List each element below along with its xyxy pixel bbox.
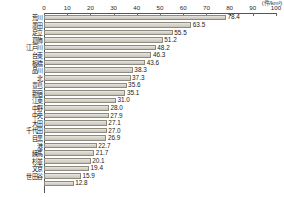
bar[interactable] xyxy=(44,173,81,179)
category-label: 文京 xyxy=(32,165,43,172)
category-label: 新宿 xyxy=(32,90,43,97)
category-label-row[interactable]: 港 xyxy=(0,142,44,150)
bar-row[interactable]: 37.3 xyxy=(44,74,276,82)
bar-row[interactable]: 43.6 xyxy=(44,59,276,67)
bar[interactable] xyxy=(44,181,74,187)
category-label-row[interactable]: 文京 xyxy=(0,165,44,173)
bar-row[interactable]: 26.9 xyxy=(44,135,276,143)
bar-value-label: 55.5 xyxy=(173,29,187,37)
bar-value-label: 51.2 xyxy=(163,36,177,44)
bar[interactable] xyxy=(44,128,107,134)
bar-value-label: 20.1 xyxy=(91,157,105,165)
x-tick-label: 40 xyxy=(133,4,140,11)
category-label: 江戸川 xyxy=(26,44,43,51)
bar-chart: (件/km²) 荒川墨田足立葛飾江戸川台東板橋品川北豊島新宿江東中野中央大田千代… xyxy=(0,0,284,197)
bar[interactable] xyxy=(44,120,107,126)
plot-area: 0102030405060708090100 78.463.555.551.24… xyxy=(44,13,276,193)
bar[interactable] xyxy=(44,15,226,21)
x-tick-label: 60 xyxy=(180,4,187,11)
bar[interactable] xyxy=(44,22,191,28)
bar[interactable] xyxy=(44,75,131,81)
bar-value-label: 12.8 xyxy=(74,179,88,187)
bar[interactable] xyxy=(44,90,125,96)
category-label-row[interactable]: 世田谷 xyxy=(0,172,44,180)
bar[interactable] xyxy=(44,105,109,111)
bar-value-label: 43.6 xyxy=(145,59,159,67)
bar-value-label: 78.4 xyxy=(226,13,240,21)
category-label-row[interactable]: 中央 xyxy=(0,112,44,120)
x-tick-label: 10 xyxy=(64,4,71,11)
category-label-row[interactable]: 杉並 xyxy=(0,157,44,165)
bar-row[interactable]: 63.5 xyxy=(44,22,276,30)
category-label: 品川 xyxy=(32,67,43,74)
bar-row[interactable]: 27.9 xyxy=(44,112,276,120)
bar-value-label: 27.1 xyxy=(107,119,121,127)
bar[interactable] xyxy=(44,30,173,36)
bar[interactable] xyxy=(44,158,91,164)
x-tick-mark xyxy=(276,13,277,16)
category-label: 板橋 xyxy=(32,59,43,66)
bar-value-label: 35.1 xyxy=(125,89,139,97)
bar-row[interactable]: 22.7 xyxy=(44,142,276,150)
bar-row[interactable]: 20.1 xyxy=(44,157,276,165)
bar[interactable] xyxy=(44,37,163,43)
category-label-row[interactable]: 豊島 xyxy=(0,82,44,90)
bar[interactable] xyxy=(44,113,109,119)
bar-value-label: 46.3 xyxy=(151,51,165,59)
bar-value-label: 31.0 xyxy=(116,96,130,104)
bar[interactable] xyxy=(44,45,156,51)
bar-value-label: 35.6 xyxy=(127,81,141,89)
category-label: 中央 xyxy=(32,112,43,119)
category-label: 練馬 xyxy=(32,150,43,157)
bar-row[interactable]: 35.1 xyxy=(44,89,276,97)
x-tick-label: 0 xyxy=(42,4,45,11)
category-label-row[interactable] xyxy=(0,180,44,188)
bar[interactable] xyxy=(44,83,127,89)
bar-row[interactable]: 31.0 xyxy=(44,97,276,105)
bar-value-label: 19.4 xyxy=(89,164,103,172)
bar[interactable] xyxy=(44,166,89,172)
category-label-row[interactable]: 品川 xyxy=(0,67,44,75)
bar-row[interactable]: 21.7 xyxy=(44,150,276,158)
bar-value-label: 63.5 xyxy=(191,21,205,29)
bar-row[interactable]: 28.0 xyxy=(44,105,276,113)
bar[interactable] xyxy=(44,60,145,66)
bar[interactable] xyxy=(44,135,106,141)
bar-value-label: 27.9 xyxy=(109,112,123,120)
category-label: 豊島 xyxy=(32,82,43,89)
bar-row[interactable]: 38.3 xyxy=(44,67,276,75)
bar-row[interactable]: 27.1 xyxy=(44,120,276,128)
x-tick-label: 30 xyxy=(110,4,117,11)
category-label-row[interactable]: 千代田 xyxy=(0,127,44,135)
category-label-row[interactable]: 足立 xyxy=(0,29,44,37)
category-label-row[interactable]: 荒川 xyxy=(0,14,44,22)
bar[interactable] xyxy=(44,143,97,149)
category-label-row[interactable]: 板橋 xyxy=(0,59,44,67)
bar-row[interactable]: 19.4 xyxy=(44,165,276,173)
category-label: 目黒 xyxy=(32,135,43,142)
bar-row[interactable]: 12.8 xyxy=(44,180,276,188)
bar[interactable] xyxy=(44,98,116,104)
category-axis-labels: 荒川墨田足立葛飾江戸川台東板橋品川北豊島新宿江東中野中央大田千代田目黒港練馬杉並… xyxy=(0,14,44,188)
bar-value-label: 48.2 xyxy=(156,44,170,52)
bar-row[interactable]: 55.5 xyxy=(44,29,276,37)
x-tick-label: 90 xyxy=(249,4,256,11)
bar-row[interactable]: 27.0 xyxy=(44,127,276,135)
bar[interactable] xyxy=(44,52,151,58)
category-label-row[interactable]: 練馬 xyxy=(0,150,44,158)
category-label-row[interactable]: 目黒 xyxy=(0,135,44,143)
category-label: 杉並 xyxy=(32,157,43,164)
bar[interactable] xyxy=(44,67,133,73)
bar-row[interactable]: 35.6 xyxy=(44,82,276,90)
x-tick-label: 80 xyxy=(226,4,233,11)
bar-value-label: 28.0 xyxy=(109,104,123,112)
category-label-row[interactable]: 江戸川 xyxy=(0,44,44,52)
category-label: 荒川 xyxy=(32,14,43,21)
category-label: 北 xyxy=(37,74,43,81)
category-label-row[interactable]: 北 xyxy=(0,74,44,82)
category-label-row[interactable]: 江東 xyxy=(0,97,44,105)
bar-row[interactable]: 78.4 xyxy=(44,14,276,22)
bar[interactable] xyxy=(44,150,94,156)
bar-row[interactable]: 46.3 xyxy=(44,52,276,60)
category-label-row[interactable]: 台東 xyxy=(0,52,44,60)
